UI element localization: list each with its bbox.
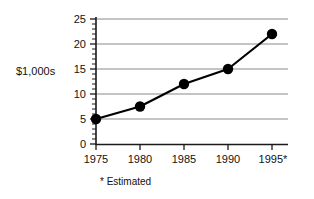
y-tick-labels: 25 20 15 10 5 0 — [74, 13, 86, 150]
y-major-ticks — [90, 19, 96, 144]
data-point-1995 — [267, 29, 277, 39]
x-tick-label-1995: 1995* — [259, 153, 288, 165]
line-chart: 25 20 15 10 5 0 1975 1980 1985 1990 1995… — [0, 0, 314, 199]
x-tick-labels: 1975 1980 1985 1990 1995* — [84, 153, 288, 165]
data-point-1975 — [91, 114, 101, 124]
y-axis-title: $1,000s — [16, 65, 56, 77]
x-tick-label-1980: 1980 — [128, 153, 152, 165]
y-tick-label-15: 15 — [74, 63, 86, 75]
y-tick-label-20: 20 — [74, 38, 86, 50]
x-tick-label-1975: 1975 — [84, 153, 108, 165]
y-tick-label-25: 25 — [74, 13, 86, 25]
chart-figure: 25 20 15 10 5 0 1975 1980 1985 1990 1995… — [0, 0, 314, 199]
y-tick-label-10: 10 — [74, 88, 86, 100]
data-point-markers — [91, 29, 277, 124]
gridlines — [96, 19, 288, 119]
data-point-1980 — [135, 101, 145, 111]
data-point-1990 — [223, 64, 233, 74]
y-tick-label-5: 5 — [80, 113, 86, 125]
x-tick-label-1990: 1990 — [216, 153, 240, 165]
footnote: * Estimated — [100, 176, 151, 187]
y-tick-label-0: 0 — [80, 138, 86, 150]
data-line — [96, 34, 272, 119]
data-point-1985 — [179, 79, 189, 89]
x-tick-label-1985: 1985 — [172, 153, 196, 165]
